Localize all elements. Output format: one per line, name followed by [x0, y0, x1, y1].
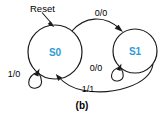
state-machine-figure: Reset S0 S1 0/0 1/0 0/0 1/1 (b) — [0, 0, 165, 113]
transition-s1-self-loop[interactable] — [111, 64, 123, 82]
transition-s0-to-s1-path — [72, 19, 120, 31]
transition-label-s0-to-s1: 0/0 — [95, 8, 108, 18]
transition-label-s1-self: 0/0 — [90, 63, 103, 73]
transition-s1-to-s0[interactable] — [56, 64, 153, 92]
transition-label-s1-to-s0: 1/1 — [82, 84, 95, 94]
transition-s0-self-loop[interactable] — [29, 69, 42, 89]
fsm-canvas: Reset S0 S1 0/0 1/0 0/0 1/1 (b) — [0, 0, 165, 113]
transition-s1-to-s0-path — [59, 64, 154, 92]
figure-caption: (b) — [76, 100, 89, 111]
state-label-s0: S0 — [49, 47, 62, 58]
transition-s0-to-s1[interactable] — [72, 19, 123, 32]
transition-label-s0-self: 1/0 — [8, 69, 21, 79]
reset-label: Reset — [30, 3, 55, 14]
state-label-s1: S1 — [129, 46, 142, 57]
